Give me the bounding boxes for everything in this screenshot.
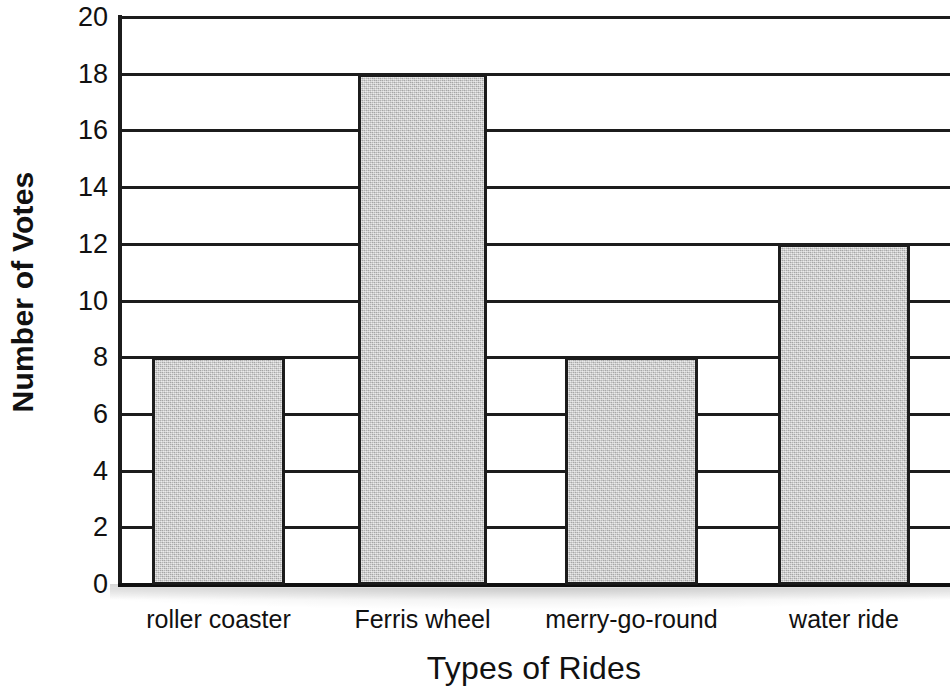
x-tick-label: roller coaster <box>146 604 291 634</box>
bar[interactable] <box>358 74 487 585</box>
y-tick-label: 16 <box>46 117 110 144</box>
gridline <box>118 186 950 189</box>
gridline <box>118 73 950 76</box>
x-tick-label: merry-go-round <box>545 604 717 634</box>
y-tick-label: 6 <box>46 400 110 427</box>
plot-area <box>118 17 950 584</box>
gridline <box>118 129 950 132</box>
y-axis-title-text: Number of Votes <box>6 172 40 413</box>
y-tick-label: 12 <box>46 230 110 257</box>
y-tick-label: 14 <box>46 174 110 201</box>
bar[interactable] <box>565 357 698 585</box>
y-axis-title: Number of Votes <box>0 0 46 584</box>
x-axis-tick-labels: roller coasterFerris wheelmerry-go-round… <box>0 604 950 644</box>
x-axis-title: Types of Rides <box>118 648 950 688</box>
y-tick-label: 10 <box>46 287 110 314</box>
y-tick-label: 8 <box>46 344 110 371</box>
bar-chart: Number of Votes 20181614121086420 roller… <box>0 0 950 697</box>
y-tick-label: 0 <box>46 571 110 598</box>
gridline <box>118 16 950 19</box>
bar[interactable] <box>152 357 285 585</box>
y-tick-label: 4 <box>46 457 110 484</box>
y-tick-label: 18 <box>46 60 110 87</box>
y-tick-label: 20 <box>46 4 110 31</box>
x-tick-label: water ride <box>789 604 899 634</box>
y-axis-tick-labels: 20181614121086420 <box>46 0 110 600</box>
y-tick-label: 2 <box>46 514 110 541</box>
x-tick-label: Ferris wheel <box>354 604 490 634</box>
bar[interactable] <box>778 244 910 585</box>
